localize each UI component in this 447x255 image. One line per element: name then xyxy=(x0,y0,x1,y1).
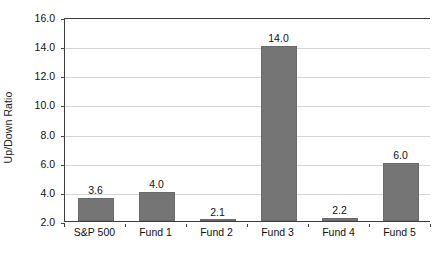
x-axis-tick-mark xyxy=(186,224,187,227)
y-axis-tick-label: 8.0 xyxy=(24,129,60,141)
y-axis-tick-label: 16.0 xyxy=(24,12,60,24)
bar-value-label: 2.2 xyxy=(332,204,347,216)
y-axis-tick-label: 14.0 xyxy=(24,41,60,53)
x-axis-tick-mark xyxy=(369,224,370,227)
y-axis-tick-label: 10.0 xyxy=(24,99,60,111)
y-axis-tick-label: 4.0 xyxy=(24,187,60,199)
bar xyxy=(322,218,358,221)
x-axis-tick-label: Fund 4 xyxy=(322,226,355,238)
x-axis-tick-label: Fund 2 xyxy=(200,226,233,238)
bar-chart: Up/Down Ratio 2.04.06.08.010.012.014.016… xyxy=(0,0,447,255)
x-axis-tick-mark xyxy=(125,224,126,227)
x-axis-tick-label: Fund 1 xyxy=(139,226,172,238)
y-axis-tick-label: 2.0 xyxy=(24,216,60,228)
bar-group: 2.1 xyxy=(187,19,248,221)
x-axis-tick-label: Fund 5 xyxy=(383,226,416,238)
bar-group: 6.0 xyxy=(370,19,431,221)
x-axis-tick-label: S&P 500 xyxy=(74,226,115,238)
bars-layer: 3.64.02.114.02.26.0 xyxy=(65,19,430,221)
bar-group: 14.0 xyxy=(248,19,309,221)
bar-value-label: 3.6 xyxy=(88,184,103,196)
bar xyxy=(200,219,236,221)
bar-group: 4.0 xyxy=(126,19,187,221)
y-axis-tick-label: 12.0 xyxy=(24,70,60,82)
bar xyxy=(261,46,297,221)
bar xyxy=(139,192,175,221)
bar-value-label: 14.0 xyxy=(268,32,288,44)
bar xyxy=(383,163,419,221)
bar-value-label: 2.1 xyxy=(210,206,225,218)
x-axis-tick-mark xyxy=(430,224,431,227)
bar-group: 3.6 xyxy=(65,19,126,221)
plot-area: 3.64.02.114.02.26.0 xyxy=(64,18,430,222)
bar xyxy=(78,198,114,221)
y-axis-tick-label: 6.0 xyxy=(24,158,60,170)
x-axis-tick-labels: S&P 500Fund 1Fund 2Fund 3Fund 4Fund 5 xyxy=(64,224,430,246)
x-axis-tick-label: Fund 3 xyxy=(261,226,294,238)
x-axis-tick-mark xyxy=(308,224,309,227)
x-axis-tick-mark xyxy=(247,224,248,227)
x-axis-tick-mark xyxy=(64,224,65,227)
bar-value-label: 4.0 xyxy=(149,178,164,190)
y-axis-tick-labels: 2.04.06.08.010.012.014.016.0 xyxy=(24,0,60,255)
bar-value-label: 6.0 xyxy=(393,149,408,161)
bar-group: 2.2 xyxy=(309,19,370,221)
